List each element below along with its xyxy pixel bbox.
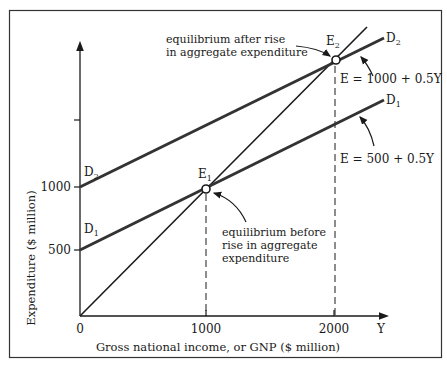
annotation-after-line2: in aggregate expenditure: [166, 46, 308, 59]
e1-point: [202, 185, 210, 193]
d1-equation: E = 500 + 0.5Y: [340, 152, 435, 166]
left-d1-label: D1: [84, 222, 99, 238]
annotation-before-line2: rise in aggregate: [222, 239, 317, 252]
e1-label: E1: [198, 167, 212, 183]
annotation-before-line3: expenditure: [222, 252, 289, 265]
x-axis-label: Gross national income, or GNP ($ million…: [96, 340, 340, 354]
diagram-frame: [10, 11, 442, 358]
right-d2-label: D2: [386, 31, 401, 47]
arrow-before-icon: [214, 193, 246, 222]
annotation-before-line1: equilibrium before: [222, 226, 326, 239]
e2-label: E2: [326, 34, 340, 50]
y-axis-label: Expenditure ($ million): [24, 190, 38, 325]
x-tick-label-0: 0: [76, 322, 84, 336]
e2-point: [332, 56, 340, 64]
expenditure-diagram: Expenditure ($ million) 1000 500 0 1000 …: [0, 0, 447, 366]
forty-five-degree-line: [80, 27, 367, 316]
right-d1-label: D1: [386, 93, 401, 109]
d2-equation: E = 1000 + 0.5Y: [340, 72, 443, 86]
arrow-d1-equation-icon: [360, 117, 374, 146]
x-tick-label-1000: 1000: [191, 322, 222, 336]
annotation-after-line1: equilibrium after rise: [166, 33, 285, 46]
y-tick-label-1000: 1000: [40, 180, 71, 194]
x-axis-end-label: Y: [376, 322, 386, 336]
left-d2-label: D2: [84, 165, 99, 181]
y-tick-label-500: 500: [48, 243, 71, 257]
x-tick-label-2000: 2000: [319, 322, 350, 336]
